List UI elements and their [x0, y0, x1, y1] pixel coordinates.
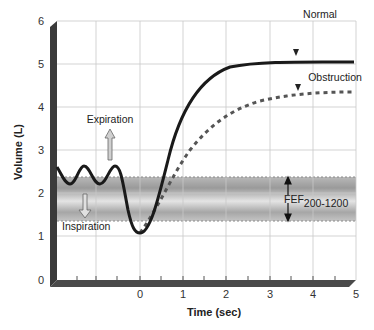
expiration-label: Expiration	[87, 113, 134, 125]
y-tick-2: 2	[38, 187, 44, 199]
x-tick-3: 3	[267, 288, 273, 300]
y-axis-title: Volume (L)	[12, 124, 24, 180]
y-tick-6: 6	[38, 15, 44, 27]
y-tick-5: 5	[38, 58, 44, 70]
x-axis-bar	[50, 280, 356, 287]
obstruction-label: Obstruction	[308, 71, 362, 83]
y-tick-4: 4	[38, 101, 44, 113]
x-tick-4: 4	[310, 288, 316, 300]
y-tick-1: 1	[38, 230, 44, 242]
inspiration-label: Inspiration	[62, 220, 111, 232]
normal-label: Normal	[303, 8, 337, 20]
x-tick-0: 0	[137, 288, 143, 300]
x-axis-title: Time (sec)	[187, 306, 242, 318]
volume-time-chart: 0 1 2 3 4 5 6 0 1 2 3 4 5 Time (sec) Vol…	[0, 0, 374, 330]
y-axis-bar	[50, 21, 57, 287]
x-tick-1: 1	[180, 288, 186, 300]
x-tick-5: 5	[353, 288, 359, 300]
x-tick-2: 2	[223, 288, 229, 300]
y-tick-0: 0	[38, 274, 44, 286]
plot-area	[57, 21, 356, 280]
y-tick-3: 3	[38, 144, 44, 156]
